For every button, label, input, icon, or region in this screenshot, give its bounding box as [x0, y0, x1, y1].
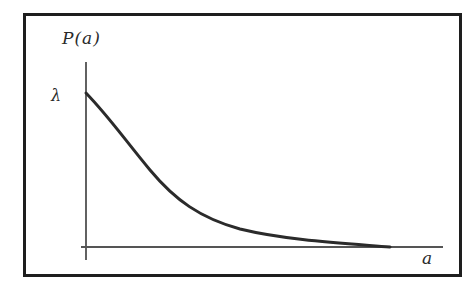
exponential-decay-curve — [86, 93, 390, 247]
y-intercept-label: λ — [51, 86, 61, 105]
x-axis-label: a — [422, 248, 432, 268]
y-axis-label: P(a) — [62, 28, 101, 48]
